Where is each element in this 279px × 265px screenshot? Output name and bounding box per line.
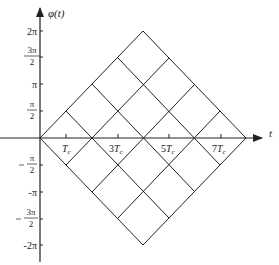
svg-text:2: 2 — [30, 111, 35, 121]
svg-text:2: 2 — [30, 57, 35, 67]
svg-text:3π: 3π — [26, 207, 36, 217]
tick-label-7Tc: 7Tc — [212, 143, 227, 156]
svg-text:3π: 3π — [27, 45, 37, 55]
tick-label-neg-3pi-2: 3π 2 — [16, 207, 38, 229]
svg-text:π: π — [30, 153, 35, 163]
svg-text:π: π — [30, 99, 35, 109]
tick-label-2pi: 2π — [27, 26, 37, 37]
tick-label-pi: π — [32, 79, 37, 90]
tick-label-3pi-2: 3π 2 — [24, 45, 40, 67]
phase-tree-diagram: φ(t) t 2π 3π 2 π π 2 π 2 -π — [0, 0, 279, 265]
x-tick-labels: Tc 3Tc 5Tc 7Tc — [62, 143, 227, 156]
y-axis-label: φ(t) — [48, 7, 65, 20]
svg-text:2: 2 — [30, 165, 35, 175]
tick-label-Tc: Tc — [62, 143, 72, 156]
tick-label-3Tc: 3Tc — [109, 143, 124, 156]
tick-label-pi-2: π 2 — [27, 99, 37, 121]
tick-label-5Tc: 5Tc — [161, 143, 176, 156]
tick-label-neg-pi: -π — [29, 187, 37, 198]
tick-label-neg-pi-2: π 2 — [19, 153, 37, 175]
svg-text:2: 2 — [29, 219, 34, 229]
tick-label-neg-2pi: -2π — [24, 240, 37, 251]
x-axis-label: t — [269, 127, 273, 139]
